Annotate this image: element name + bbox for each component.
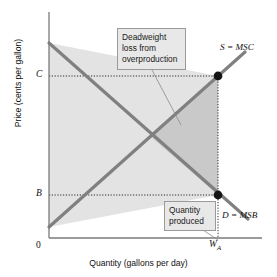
point-b-on-demand — [214, 191, 223, 200]
x-tick-label-wa: WA — [209, 239, 221, 251]
point-c-on-supply — [214, 72, 223, 81]
supply-curve-label: S = MSC — [220, 42, 254, 52]
x-tick-label-wa-sub: A — [217, 244, 221, 251]
economics-diagram: Deadweight loss from overproduction Quan… — [0, 0, 277, 277]
y-axis-title: Price (cents per gallon) — [13, 13, 23, 153]
origin-label: 0 — [36, 240, 41, 250]
quantity-produced-callout: Quantity produced — [164, 201, 216, 231]
y-tick-label-b: B — [36, 188, 42, 198]
x-axis-title: Quantity (gallons per day) — [0, 258, 277, 268]
demand-curve-label: D = MSB — [222, 210, 257, 220]
deadweight-loss-callout: Deadweight loss from overproduction — [117, 28, 186, 70]
y-tick-label-c: C — [36, 69, 42, 79]
x-tick-label-wa-main: W — [209, 239, 217, 249]
